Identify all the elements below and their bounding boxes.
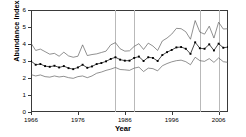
- data-point-1969: [44, 65, 46, 67]
- data-point-2002: [199, 47, 201, 49]
- x-axis-title: Year: [0, 124, 246, 133]
- y-tick-label-4: 4: [23, 41, 26, 47]
- data-point-2008: [227, 46, 228, 48]
- data-point-2005: [213, 50, 215, 52]
- abundance-index-chart: Abundance Index 0123456 1966197619861996…: [0, 0, 246, 137]
- data-point-1998: [180, 46, 182, 48]
- data-point-1974: [68, 67, 70, 69]
- data-point-1967: [35, 64, 37, 66]
- data-point-2000: [190, 53, 192, 55]
- data-point-1984: [114, 56, 116, 58]
- data-point-1968: [39, 63, 41, 65]
- data-point-1977: [82, 64, 84, 66]
- data-point-1986: [124, 60, 126, 62]
- data-point-2006: [218, 43, 220, 45]
- series-layer: [31, 10, 228, 112]
- y-tick-label-1: 1: [23, 92, 26, 98]
- data-point-2003: [204, 48, 206, 50]
- data-point-1985: [119, 59, 121, 61]
- x-tick-label-2006: 2006: [212, 116, 226, 123]
- data-point-1970: [49, 66, 51, 68]
- x-tick-label-1996: 1996: [165, 116, 179, 123]
- y-tick-label-0: 0: [23, 109, 26, 115]
- data-point-1989: [138, 56, 140, 58]
- data-point-1988: [133, 57, 135, 59]
- x-tick-label-1986: 1986: [118, 116, 132, 123]
- data-point-2004: [208, 43, 210, 45]
- data-point-1973: [63, 65, 65, 67]
- series-line-abundance-index: [31, 42, 228, 69]
- data-point-1972: [58, 67, 60, 69]
- data-point-1994: [161, 54, 163, 56]
- x-tick-1986: [125, 112, 126, 115]
- data-point-1996: [171, 49, 173, 51]
- plot-area: 0123456 19661976198619962006: [31, 10, 228, 112]
- y-tick-label-6: 6: [23, 7, 26, 13]
- data-point-1993: [157, 60, 159, 62]
- data-point-2007: [222, 47, 224, 49]
- data-point-1981: [100, 62, 102, 64]
- y-axis-title: Abundance Index: [11, 0, 23, 81]
- data-point-1983: [110, 58, 112, 60]
- data-point-1976: [77, 67, 79, 69]
- data-point-1980: [96, 63, 98, 65]
- data-point-2001: [194, 41, 196, 43]
- data-point-1999: [185, 48, 187, 50]
- x-tick-2006: [219, 112, 220, 115]
- x-tick-1966: [31, 112, 32, 115]
- data-point-1966: [31, 60, 32, 62]
- data-point-1971: [54, 65, 56, 67]
- x-tick-1996: [172, 112, 173, 115]
- data-point-1987: [129, 60, 131, 62]
- series-line-upper-confidence-limit: [31, 21, 228, 58]
- data-point-1995: [166, 51, 168, 53]
- data-point-1990: [143, 60, 145, 62]
- data-point-1982: [105, 60, 107, 62]
- x-tick-1976: [78, 112, 79, 115]
- data-point-1978: [86, 67, 88, 69]
- y-tick-label-5: 5: [23, 24, 26, 30]
- data-point-1979: [91, 65, 93, 67]
- x-tick-label-1976: 1976: [71, 116, 85, 123]
- x-tick-label-1966: 1966: [24, 116, 38, 123]
- data-point-1997: [175, 46, 177, 48]
- y-tick-label-2: 2: [23, 75, 26, 81]
- data-point-1991: [147, 56, 149, 58]
- data-point-1975: [72, 68, 74, 70]
- y-tick-label-3: 3: [23, 58, 26, 64]
- data-point-1992: [152, 57, 154, 59]
